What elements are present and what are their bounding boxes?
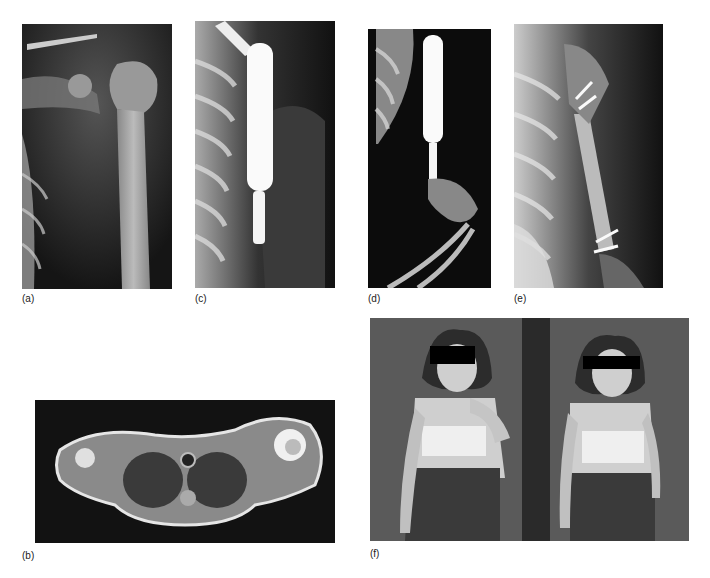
panel-b-mri	[35, 400, 335, 543]
eye-mask-bar	[583, 356, 640, 369]
panel-e-xray	[514, 24, 663, 288]
eye-mask-bar	[430, 346, 475, 364]
panel-c-xray	[195, 21, 335, 288]
elbow-prosthesis-xray-image	[368, 29, 491, 288]
shoulder-xray-image	[22, 24, 172, 289]
panel-label-b: (b)	[22, 550, 34, 561]
panel-label-d: (d)	[368, 293, 380, 304]
patient-photographs	[370, 318, 689, 541]
panel-d-xray	[368, 29, 491, 288]
panel-a-xray	[22, 24, 172, 289]
axial-mri-image	[35, 400, 335, 543]
panel-label-f: (f)	[370, 548, 379, 559]
panel-f-photo	[370, 318, 689, 541]
panel-label-e: (e)	[514, 293, 526, 304]
panel-label-c: (c)	[195, 293, 207, 304]
prosthesis-xray-image	[195, 21, 335, 288]
graft-fixation-xray-image	[514, 24, 663, 288]
panel-label-a: (a)	[22, 293, 34, 304]
